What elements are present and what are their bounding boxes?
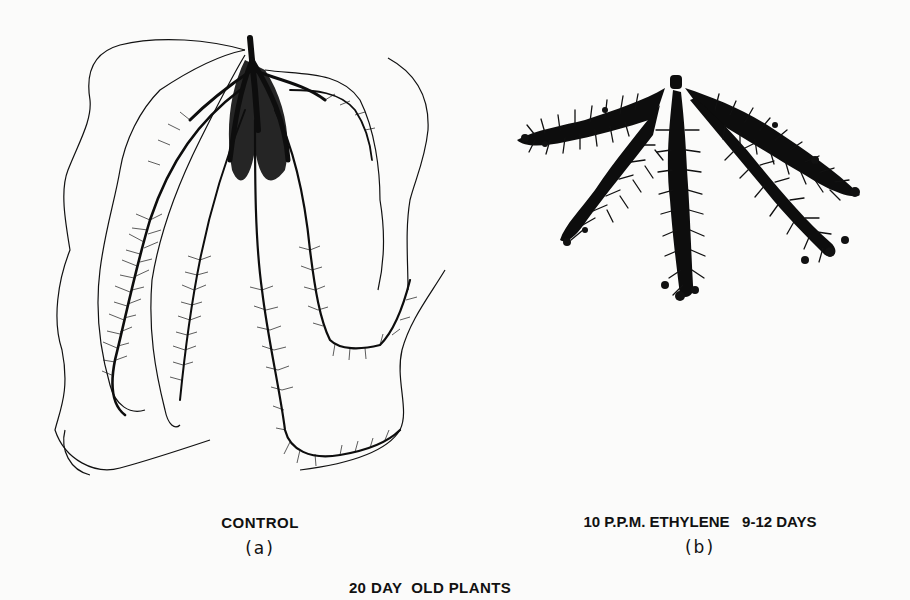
control-root-illustration (40, 30, 460, 490)
figure-title: 20 DAY OLD PLANTS (300, 579, 560, 596)
panel-a-caption: CONTROL (190, 514, 330, 531)
panel-b-label: (b) (535, 537, 865, 557)
panel-a-label: (a) (190, 538, 330, 558)
ethylene-root-illustration (505, 70, 875, 310)
panel-b-caption: 10 P.P.M. ETHYLENE 9-12 DAYS (535, 513, 865, 530)
figure: CONTROL (a) 10 P.P.M. ETHYLENE 9-12 DAYS… (0, 0, 910, 600)
